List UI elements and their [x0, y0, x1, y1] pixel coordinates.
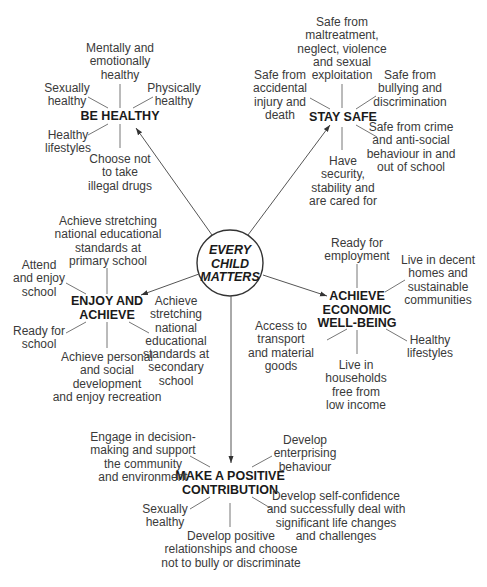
economic-item-homes: Live in decent homes and sustainable com… [401, 254, 475, 307]
be-healthy-item-lifestyles: Healthy lifestyles [45, 129, 91, 156]
economic-item-households: Live in households free from low income [325, 359, 386, 412]
stay-safe-item-crime: Safe from crime and anti-social behaviou… [367, 121, 456, 174]
positive-contribution-item-engage: Engage in decision- making and support t… [90, 431, 195, 484]
positive-contribution-item-sexual: Sexually healthy [142, 503, 187, 530]
enjoy-achieve-item-ready-school: Ready for school [13, 325, 65, 352]
enjoy-achieve-item-attend: Attend and enjoy school [13, 259, 65, 299]
enjoy-achieve-heading: ENJOY AND ACHIEVE [71, 295, 143, 322]
be-healthy-heading: BE HEALTHY [81, 110, 160, 124]
positive-contribution-item-enterprising: Develop enterprising behaviour [274, 434, 337, 474]
center-label: EVERY CHILD MATTERS [200, 244, 260, 285]
economic-item-transport: Access to transport and material goods [248, 320, 314, 373]
stay-safe-item-security: Have security, stability and are cared f… [309, 155, 377, 208]
stay-safe-item-accidental: Safe from accidental injury and death [253, 69, 307, 122]
economic-item-healthy-lifestyles: Healthy lifestyles [407, 334, 453, 361]
every-child-matters-diagram: EVERY CHILD MATTERS BE HEALTHY Mentally … [0, 0, 487, 587]
enjoy-achieve-item-primary: Achieve stretching national educational … [55, 215, 162, 268]
enjoy-achieve-item-personal: Achieve personal and social development … [53, 351, 162, 404]
stay-safe-item-bullying: Safe from bullying and discrimination [373, 69, 446, 109]
economic-heading: ACHIEVE ECONOMIC WELL-BEING [317, 290, 396, 331]
be-healthy-item-physical: Physically healthy [147, 82, 200, 109]
economic-item-employment: Ready for employment [324, 237, 389, 264]
positive-contribution-item-relationships: Develop positive relationships and choos… [161, 530, 300, 570]
be-healthy-item-drugs: Choose not to take illegal drugs [88, 153, 152, 193]
be-healthy-item-sexual: Sexually healthy [44, 82, 89, 109]
arrow-to-enjoy-achieve [141, 274, 199, 295]
be-healthy-item-mental: Mentally and emotionally healthy [86, 42, 154, 82]
